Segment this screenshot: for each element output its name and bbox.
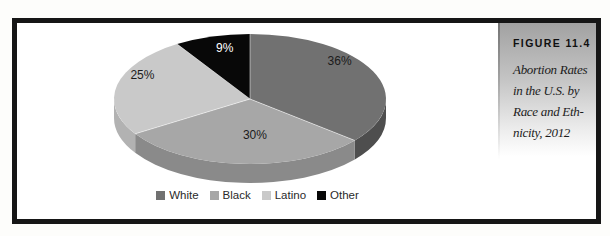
caption-line: nicity, 2012 [513,122,593,143]
legend-swatch-black [210,191,219,200]
legend-item-latino: Latino [262,190,306,201]
chart-area: 36%30%25%9% WhiteBlackLatinoOther [17,23,498,219]
figure-caption-panel: FIGURE 11.4 Abortion Rates in the U.S. b… [498,23,596,219]
legend-item-white: White [156,190,198,201]
legend-swatch-white [156,191,165,200]
legend-item-other: Other [317,190,359,201]
caption-line: Race and Eth- [513,101,593,122]
figure-number: FIGURE 11.4 [513,37,592,49]
legend-label-latino: Latino [275,190,306,201]
legend-label-black: Black [223,190,251,201]
caption-line: in the U.S. by [513,80,593,101]
figure-caption: Abortion Rates in the U.S. by Race and E… [513,59,593,143]
legend-label-other: Other [330,190,359,201]
legend-item-black: Black [210,190,251,201]
slice-value-label-white: 36% [328,54,352,68]
legend-swatch-latino [262,191,271,200]
slice-value-label-other: 9% [216,41,234,55]
figure-frame: 36%30%25%9% WhiteBlackLatinoOther FIGURE… [12,18,601,224]
chart-legend: WhiteBlackLatinoOther [17,190,498,201]
legend-swatch-other [317,191,326,200]
caption-line: Abortion Rates [513,59,593,80]
slice-value-label-latino: 25% [130,68,154,82]
legend-label-white: White [169,190,198,201]
slice-value-label-black: 30% [243,128,267,142]
